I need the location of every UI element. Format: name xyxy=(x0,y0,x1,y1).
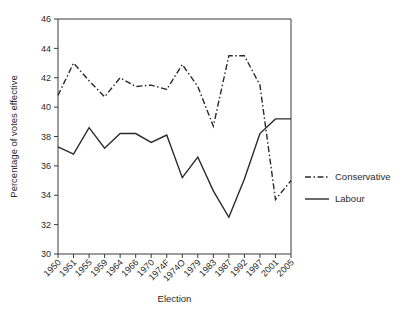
y-tick-label: 42 xyxy=(41,73,51,83)
y-tick-label: 46 xyxy=(41,14,51,24)
chart-container: 3032343638404244461950195119551959196419… xyxy=(0,0,404,318)
series-line-labour xyxy=(58,119,291,217)
y-tick-label: 38 xyxy=(41,132,51,142)
y-axis-title: Percentage of votes effective xyxy=(8,75,19,197)
y-tick-label: 36 xyxy=(41,161,51,171)
y-tick-label: 34 xyxy=(41,190,51,200)
y-tick-label: 40 xyxy=(41,102,51,112)
series-line-conservative xyxy=(58,56,291,200)
y-tick-label: 44 xyxy=(41,44,51,54)
y-tick-label: 30 xyxy=(41,249,51,259)
line-chart: 3032343638404244461950195119551959196419… xyxy=(0,0,404,318)
x-axis-title: Election xyxy=(158,293,192,304)
axis-frame xyxy=(58,19,291,254)
y-tick-label: 32 xyxy=(41,220,51,230)
legend-label-conservative: Conservative xyxy=(335,171,390,182)
x-tick-label: 2005 xyxy=(275,257,296,278)
legend-label-labour: Labour xyxy=(335,193,365,204)
